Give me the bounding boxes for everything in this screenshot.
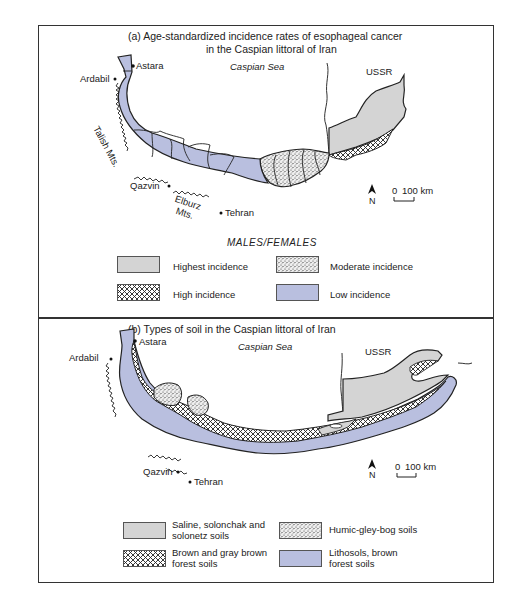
label-ardabil: Ardabil xyxy=(69,352,99,363)
label-qazvin: Qazvin xyxy=(130,180,160,191)
label-qazvin: Qazvin xyxy=(143,466,173,477)
label-caspian-sea: Caspian Sea xyxy=(230,61,284,72)
legend-lithosols-line2: forest soils xyxy=(329,558,398,569)
north-label: N xyxy=(369,470,376,480)
label-caspian-sea: Caspian Sea xyxy=(238,341,292,352)
legend-label-highest: Highest incidence xyxy=(173,261,248,272)
legend-swatch-highest xyxy=(117,256,160,273)
legend-swatch-saline xyxy=(123,522,166,539)
label-astara: Astara xyxy=(139,336,166,347)
legend-swatch-brown-forest xyxy=(123,550,166,567)
panel-incidence-map: (a) Age-standardized incidence rates of … xyxy=(38,25,494,317)
legend-swatch-high xyxy=(117,284,160,301)
legend-label-lithosols: Lithosols, brown forest soils xyxy=(329,547,398,569)
legend-saline-line2: solonetz soils xyxy=(172,530,265,541)
scale-value: 100 km xyxy=(402,185,433,196)
legend-swatch-lithosols xyxy=(279,550,322,567)
legend-swatch-humic xyxy=(279,522,322,539)
label-ardabil: Ardabil xyxy=(80,73,110,84)
soil-map xyxy=(38,319,494,583)
legend-heading: MALES/FEMALES xyxy=(227,237,317,248)
scale-value: 100 km xyxy=(405,461,436,472)
label-ussr: USSR xyxy=(366,66,392,77)
legend-lithosols-line1: Lithosols, brown xyxy=(329,547,398,558)
legend-brown-line2: forest soils xyxy=(172,558,267,569)
north-label: N xyxy=(369,196,376,206)
legend-label-moderate: Moderate incidence xyxy=(330,261,413,272)
panel-soil-map: (b) Types of soil in the Caspian littora… xyxy=(38,319,494,583)
legend-label-saline: Saline, solonchak and solonetz soils xyxy=(172,519,265,541)
legend-label-high: High incidence xyxy=(173,289,235,300)
legend-brown-line1: Brown and gray brown xyxy=(172,547,267,558)
scale-zero: 0 xyxy=(392,185,397,196)
legend-label-humic: Humic-gley-bog soils xyxy=(329,524,417,535)
label-astara: Astara xyxy=(136,60,163,71)
legend-label-brown-forest: Brown and gray brown forest soils xyxy=(172,547,267,569)
legend-swatch-moderate xyxy=(276,256,319,273)
label-tehran: Tehran xyxy=(225,207,254,218)
scale-zero: 0 xyxy=(395,461,400,472)
legend-swatch-low xyxy=(276,284,319,301)
legend-saline-line1: Saline, solonchak and xyxy=(172,519,265,530)
legend-label-low: Low incidence xyxy=(330,289,390,300)
label-ussr: USSR xyxy=(365,346,391,357)
label-tehran: Tehran xyxy=(194,476,223,487)
